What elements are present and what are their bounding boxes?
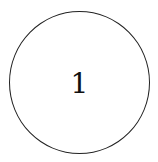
diagram-canvas: 1	[0, 0, 158, 162]
node-label: 1	[71, 70, 89, 98]
circle-node: 1	[9, 11, 150, 154]
